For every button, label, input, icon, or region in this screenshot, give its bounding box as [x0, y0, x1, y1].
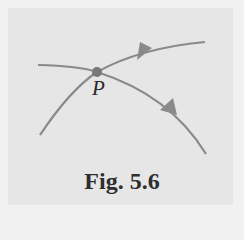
figure-caption: Fig. 5.6 [0, 168, 244, 195]
curve-lower [38, 65, 206, 154]
point-label: P [92, 76, 105, 101]
